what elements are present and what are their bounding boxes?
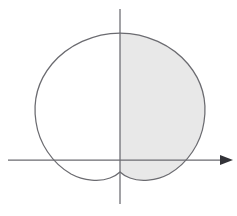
cardioid-figure — [0, 0, 237, 216]
figure-container — [0, 0, 237, 216]
